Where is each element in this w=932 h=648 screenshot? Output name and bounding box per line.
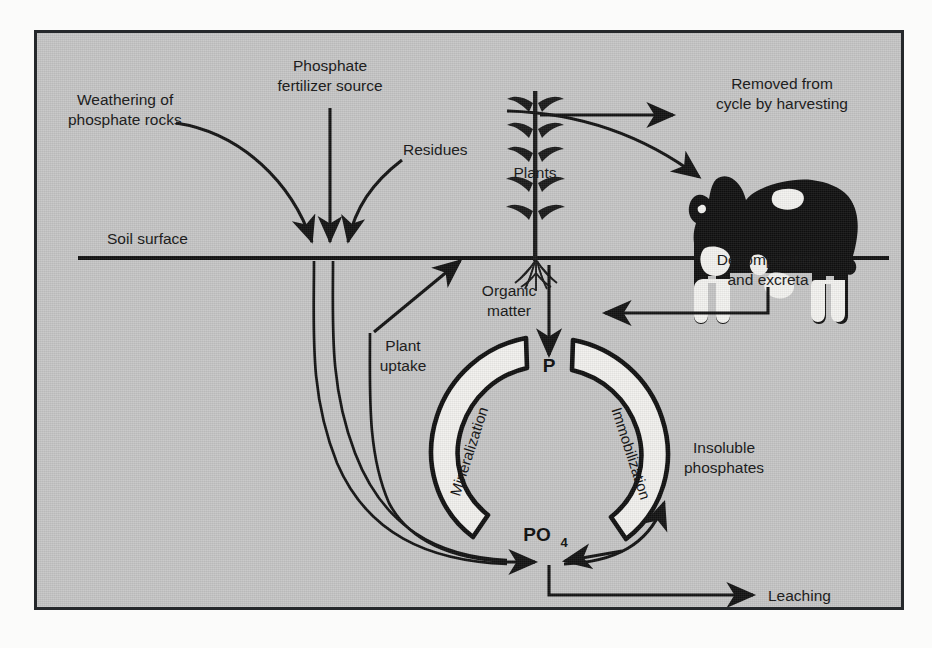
leaching-label: Leaching [768, 587, 831, 604]
residues-arrow [348, 160, 402, 242]
svg-text:Decomposition: Decomposition [717, 251, 820, 268]
phosphorus-cycle-diagram: Mineralization Immobilization P PO 4 Wea… [37, 33, 901, 607]
plant-uptake-label: Plant uptake [380, 337, 427, 374]
insoluble-phosphates-label: Insoluble phosphates [684, 439, 764, 476]
fertilizer-label: Phosphate fertilizer source [277, 57, 382, 94]
plant-uptake-arrow [374, 261, 460, 332]
pool-po4-label: PO 4 [523, 524, 568, 550]
figure-page: Mineralization Immobilization P PO 4 Wea… [0, 0, 932, 648]
residues-label: Residues [403, 141, 468, 158]
svg-text:phosphates: phosphates [684, 459, 764, 476]
corn-plant-silhouette [506, 91, 565, 291]
soil-surface-label: Soil surface [107, 230, 188, 247]
svg-text:Organic: Organic [482, 282, 537, 299]
svg-text:phosphate rocks: phosphate rocks [68, 111, 182, 128]
svg-text:matter: matter [487, 302, 531, 319]
svg-text:PO: PO [523, 524, 550, 545]
weathering-arrow [176, 123, 312, 242]
svg-text:Removed from: Removed from [731, 75, 833, 92]
svg-text:Plant: Plant [385, 337, 421, 354]
svg-text:uptake: uptake [380, 357, 427, 374]
svg-text:and excreta: and excreta [728, 271, 809, 288]
svg-text:4: 4 [560, 535, 568, 550]
leaching-arrow [549, 565, 753, 595]
figure-frame: Mineralization Immobilization P PO 4 Wea… [34, 30, 904, 610]
organic-matter-label: Organic matter [482, 282, 537, 319]
svg-text:fertilizer source: fertilizer source [277, 77, 382, 94]
svg-text:Weathering of: Weathering of [77, 91, 174, 108]
harvest-label: Removed from cycle by harvesting [716, 75, 848, 112]
plants-label: Plants [513, 164, 556, 181]
pool-p-label: P [543, 355, 556, 376]
svg-text:cycle by harvesting: cycle by harvesting [716, 95, 848, 112]
svg-text:Phosphate: Phosphate [293, 57, 367, 74]
decomposition-arrow [605, 287, 768, 313]
svg-text:Insoluble: Insoluble [693, 439, 755, 456]
weathering-label: Weathering of phosphate rocks [68, 91, 182, 128]
